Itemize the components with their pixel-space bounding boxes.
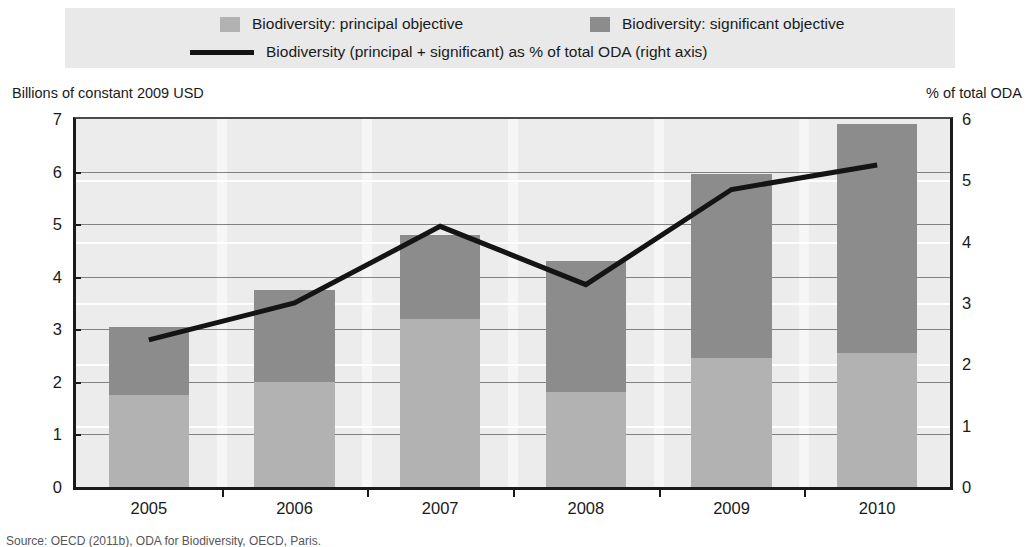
legend-item-significant: Biodiversity: significant objective — [590, 10, 844, 38]
left-axis-tickmark — [73, 382, 81, 384]
x-axis-tick-label-2005: 2005 — [130, 499, 167, 518]
right-axis-tick-label: 4 — [962, 232, 971, 251]
source-note: Source: OECD (2011b), ODA for Biodiversi… — [6, 534, 1026, 547]
x-axis-tick-label-2009: 2009 — [713, 499, 750, 518]
legend-row-swatches: Biodiversity: principal objective Biodiv… — [65, 10, 955, 38]
left-axis-tick-label: 4 — [53, 267, 62, 286]
line-path-percent-oda — [149, 165, 877, 340]
x-axis-tick-labels: 200520062007200820092010 — [73, 499, 953, 523]
x-axis-tick-label-2010: 2010 — [859, 499, 896, 518]
x-axis-tick-label-2006: 2006 — [276, 499, 313, 518]
left-axis-tickmark — [73, 172, 81, 174]
left-axis-tick-label: 1 — [53, 425, 62, 444]
right-axis-tick-label: 1 — [962, 416, 971, 435]
x-axis-tickmark — [659, 490, 661, 497]
legend-row-line: Biodiversity (principal + significant) a… — [65, 38, 955, 66]
x-axis-tickmark — [222, 490, 224, 497]
x-axis-tickmark — [513, 490, 515, 497]
percent-of-oda-line — [76, 119, 950, 487]
x-axis-tickmarks — [73, 490, 953, 498]
legend-item-principal: Biodiversity: principal objective — [220, 10, 463, 38]
x-axis-tickmark — [367, 490, 369, 497]
left-axis-tick-label: 0 — [53, 478, 62, 497]
square-swatch-significant-icon — [590, 17, 610, 32]
left-axis-tickmark — [73, 277, 81, 279]
right-axis-caption: % of total ODA — [926, 85, 1022, 101]
left-axis-tickmarks — [73, 117, 85, 490]
x-axis-tickmark — [804, 490, 806, 497]
right-axis-tick-label: 2 — [962, 355, 971, 374]
chart-legend: Biodiversity: principal objective Biodiv… — [65, 8, 955, 68]
right-axis-tick-labels: 6543210 — [962, 117, 1002, 490]
left-axis-caption: Billions of constant 2009 USD — [12, 85, 204, 101]
left-axis-tickmark — [73, 224, 81, 226]
right-axis-tick-label: 0 — [962, 478, 971, 497]
left-axis-tick-label: 7 — [53, 110, 62, 129]
left-axis-tickmark — [73, 434, 81, 436]
right-axis-tickmarks — [941, 117, 953, 490]
left-axis-tick-label: 2 — [53, 372, 62, 391]
right-axis-tick-label: 3 — [962, 294, 971, 313]
chart-figure: Biodiversity: principal objective Biodiv… — [0, 0, 1032, 547]
legend-item-percent-line: Biodiversity (principal + significant) a… — [190, 38, 708, 66]
left-axis-tick-labels: 76543210 — [28, 117, 62, 490]
x-axis-tick-label-2007: 2007 — [422, 499, 459, 518]
plot-area — [73, 117, 953, 490]
plot-frame — [73, 117, 953, 490]
right-axis-tick-label: 5 — [962, 171, 971, 190]
left-axis-tickmark — [73, 329, 81, 331]
left-axis-tick-label: 3 — [53, 320, 62, 339]
line-swatch-icon — [190, 50, 254, 55]
legend-label-percent-line: Biodiversity (principal + significant) a… — [266, 44, 708, 60]
square-swatch-principal-icon — [220, 17, 240, 32]
legend-label-principal: Biodiversity: principal objective — [252, 16, 463, 32]
right-axis-tick-label: 6 — [962, 110, 971, 129]
left-axis-tick-label: 5 — [53, 215, 62, 234]
legend-label-significant: Biodiversity: significant objective — [622, 16, 844, 32]
x-axis-tick-label-2008: 2008 — [567, 499, 604, 518]
left-axis-tick-label: 6 — [53, 162, 62, 181]
